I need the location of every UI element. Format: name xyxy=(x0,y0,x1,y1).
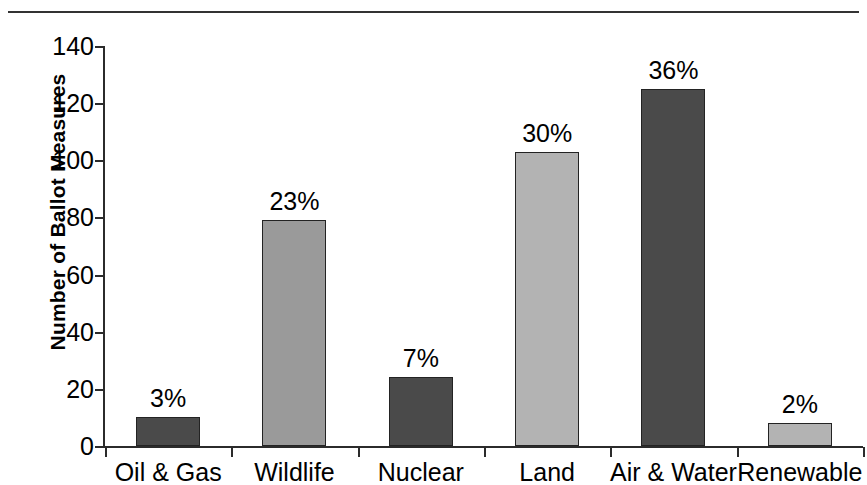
y-tick-label: 100 xyxy=(52,148,94,173)
bar-value-label: 23% xyxy=(269,189,319,214)
y-tick-mark xyxy=(95,217,104,219)
x-tick-label: Air & Water xyxy=(610,459,737,485)
bar-value-label: 30% xyxy=(522,121,572,146)
bar-value-label: 36% xyxy=(648,58,698,83)
y-tick-mark xyxy=(95,103,104,105)
x-tick-label: Wildlife xyxy=(254,459,335,485)
bar[interactable] xyxy=(262,220,326,446)
y-axis-tick-labels: 020406080100120140 xyxy=(32,35,94,459)
bar-value-label: 3% xyxy=(150,386,186,411)
y-tick-mark xyxy=(95,160,104,162)
y-tick-mark xyxy=(95,446,104,448)
bar-slot: 36% xyxy=(610,46,736,446)
bar[interactable] xyxy=(136,417,200,446)
bar[interactable] xyxy=(389,377,453,446)
bar[interactable] xyxy=(641,89,705,446)
y-tick-label: 120 xyxy=(52,91,94,116)
x-tick-mark xyxy=(863,447,865,457)
plot-area: 3%23%7%30%36%2% xyxy=(105,46,863,446)
x-tick-mark xyxy=(358,447,360,457)
bar[interactable] xyxy=(768,423,832,446)
y-tick-label: 0 xyxy=(80,434,94,459)
y-tick-label: 80 xyxy=(66,205,94,230)
y-tick-mark xyxy=(95,275,104,277)
x-tick-label: Nuclear xyxy=(378,459,464,485)
x-tick-mark xyxy=(105,447,107,457)
x-tick-label: Land xyxy=(519,459,575,485)
bar-slot: 2% xyxy=(737,46,863,446)
figure-top-rule xyxy=(8,11,859,13)
x-tick-mark xyxy=(737,447,739,457)
bar-slot: 23% xyxy=(231,46,357,446)
bar-slot: 3% xyxy=(105,46,231,446)
bar-value-label: 2% xyxy=(782,392,818,417)
y-tick-mark xyxy=(95,389,104,391)
x-tick-mark xyxy=(231,447,233,457)
x-tick-mark xyxy=(484,447,486,457)
y-tick-label: 20 xyxy=(66,376,94,401)
x-tick-label: Oil & Gas xyxy=(115,459,222,485)
bar[interactable] xyxy=(515,152,579,446)
y-tick-mark xyxy=(95,46,104,48)
y-tick-label: 40 xyxy=(66,319,94,344)
x-axis-line xyxy=(103,446,863,448)
cropped-caption-fragment xyxy=(96,0,216,7)
bar-slot: 30% xyxy=(484,46,610,446)
bar-value-label: 7% xyxy=(403,346,439,371)
x-axis-tick-labels: Oil & GasWildlifeNuclearLandAir & WaterR… xyxy=(105,459,863,483)
y-tick-label: 140 xyxy=(52,34,94,59)
y-tick-label: 60 xyxy=(66,262,94,287)
x-tick-mark xyxy=(610,447,612,457)
y-tick-mark xyxy=(95,332,104,334)
bar-slot: 7% xyxy=(358,46,484,446)
x-tick-label: Renewable xyxy=(737,459,862,485)
